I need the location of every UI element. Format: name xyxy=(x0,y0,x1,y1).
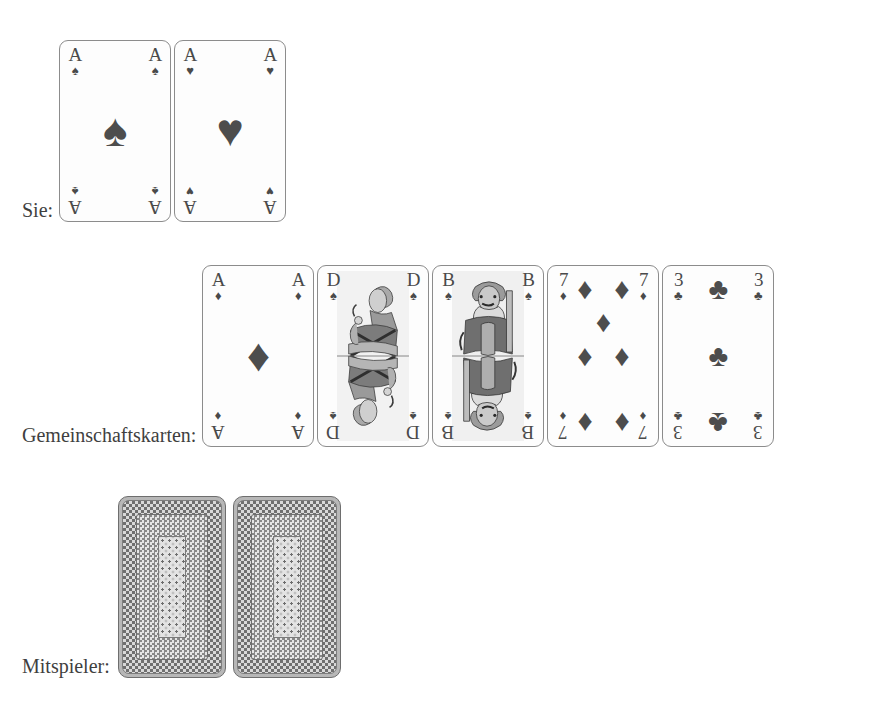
card-back-border-pattern xyxy=(237,500,337,674)
spade-icon: ♠ xyxy=(402,289,424,302)
card-back-field-pattern xyxy=(158,536,186,638)
spade-icon: ♠ xyxy=(322,289,344,302)
diamond-icon: ♦ xyxy=(247,333,270,379)
card-corner-top-left: B ♠ xyxy=(437,270,459,302)
card-pip-field: ♦ ♦ ♦ ♦ ♦ ♦ ♦ xyxy=(570,276,636,436)
club-icon: ♣ xyxy=(709,408,729,438)
card-rank: A xyxy=(259,198,281,217)
card-corner-top-left: D ♠ xyxy=(322,270,344,302)
opponent-hand-row: Mitspieler: xyxy=(22,494,341,678)
card-corner-bottom-right: 3 ♣ xyxy=(747,410,769,442)
diamond-icon: ♦ xyxy=(614,274,629,304)
club-icon: ♣ xyxy=(667,410,689,423)
diamond-icon: ♦ xyxy=(552,410,574,423)
card-rank: 7 xyxy=(552,423,574,442)
card-back-inner-border xyxy=(251,514,323,660)
diamond-icon: ♦ xyxy=(596,307,611,337)
card-corner-bottom-right: B ♠ xyxy=(517,410,539,442)
jack-figure-artwork xyxy=(452,271,524,441)
card-corner-bottom-left: D ♠ xyxy=(322,410,344,442)
diamond-icon: ♦ xyxy=(614,408,629,438)
card-corner-bottom-right: D ♠ xyxy=(402,410,424,442)
card-rank: D xyxy=(402,423,424,442)
card-corner-top-right: D ♠ xyxy=(402,270,424,302)
card-pip-field: ♥ xyxy=(197,51,263,211)
card-rank: D xyxy=(322,423,344,442)
card-queen-of-spades[interactable]: D ♠ D ♠ D ♠ D ♠ xyxy=(317,265,429,447)
card-rank: 7 xyxy=(632,423,654,442)
card-ace-of-spades[interactable]: A ♠ A ♠ ♠ A ♠ A ♠ xyxy=(59,40,171,222)
card-corner-bottom-left: A ♦ xyxy=(207,410,229,442)
community-cards-list: A ♦ A ♦ ♦ A ♦ A ♦ xyxy=(202,265,774,447)
diamond-icon: ♦ xyxy=(632,410,654,423)
card-face-down-1[interactable] xyxy=(118,496,226,678)
card-rank: A xyxy=(144,198,166,217)
club-icon: ♣ xyxy=(709,341,729,371)
card-pip-field: ♠ xyxy=(82,51,148,211)
opponent-hand-cards xyxy=(118,496,341,678)
spade-icon: ♠ xyxy=(517,289,539,302)
club-icon: ♣ xyxy=(709,274,729,304)
card-pip-field: ♦ xyxy=(225,276,291,436)
diamond-icon: ♦ xyxy=(614,341,629,371)
card-rank: A xyxy=(179,198,201,217)
player-hand-cards: A ♠ A ♠ ♠ A ♠ A ♠ A ♥ xyxy=(59,40,286,222)
player-hand-label: Sie: xyxy=(22,200,53,222)
card-corner-bottom-left: A ♥ xyxy=(179,185,201,217)
card-corner-bottom-right: A ♦ xyxy=(287,410,309,442)
card-corner-bottom-right: 7 ♦ xyxy=(632,410,654,442)
diamond-icon: ♦ xyxy=(577,274,592,304)
card-rank: A xyxy=(64,198,86,217)
club-icon: ♣ xyxy=(747,410,769,423)
card-rank: 3 xyxy=(747,423,769,442)
card-rank: D xyxy=(322,270,344,289)
card-pip-field: ♣ ♣ ♣ xyxy=(685,276,751,436)
card-corner-bottom-left: A ♠ xyxy=(64,185,86,217)
player-hand-row: Sie: A ♠ A ♠ ♠ A ♠ A ♠ xyxy=(22,38,286,222)
diamond-icon: ♦ xyxy=(577,341,592,371)
card-corner-bottom-right: A ♥ xyxy=(259,185,281,217)
card-ace-of-hearts[interactable]: A ♥ A ♥ ♥ A ♥ A ♥ xyxy=(174,40,286,222)
card-rank: B xyxy=(437,423,459,442)
opponent-hand-label: Mitspieler: xyxy=(22,656,110,678)
community-cards-label: Gemeinschaftskarten: xyxy=(22,425,196,447)
card-seven-of-diamonds[interactable]: 7 ♦ 7 ♦ ♦ ♦ ♦ ♦ ♦ ♦ ♦ 7 ♦ 7 ♦ xyxy=(547,265,659,447)
spade-icon: ♠ xyxy=(103,108,127,154)
diamond-icon: ♦ xyxy=(577,408,592,438)
card-rank: B xyxy=(517,423,539,442)
card-corner-top-right: B ♠ xyxy=(517,270,539,302)
spade-icon: ♠ xyxy=(437,289,459,302)
card-rank: 3 xyxy=(667,423,689,442)
card-rank: A xyxy=(287,423,309,442)
card-rank: B xyxy=(517,270,539,289)
card-jack-of-spades[interactable]: B ♠ B ♠ B ♠ B ♠ xyxy=(432,265,544,447)
community-cards-row: Gemeinschaftskarten: A ♦ A ♦ ♦ A ♦ A ♦ xyxy=(22,263,774,447)
spade-icon: ♠ xyxy=(517,410,539,423)
card-corner-bottom-left: 3 ♣ xyxy=(667,410,689,442)
card-corner-bottom-left: 7 ♦ xyxy=(552,410,574,442)
spade-icon: ♠ xyxy=(437,410,459,423)
heart-icon: ♥ xyxy=(216,108,243,154)
card-back-field-pattern xyxy=(273,536,301,638)
card-rank: A xyxy=(207,423,229,442)
card-back-border-pattern xyxy=(122,500,222,674)
card-corner-bottom-left: B ♠ xyxy=(437,410,459,442)
queen-figure-artwork xyxy=(337,271,409,441)
card-back-inner-border xyxy=(136,514,208,660)
card-rank: D xyxy=(402,270,424,289)
card-corner-bottom-right: A ♠ xyxy=(144,185,166,217)
card-face-down-2[interactable] xyxy=(233,496,341,678)
card-rank: B xyxy=(437,270,459,289)
card-three-of-clubs[interactable]: 3 ♣ 3 ♣ ♣ ♣ ♣ 3 ♣ 3 ♣ xyxy=(662,265,774,447)
card-ace-of-diamonds[interactable]: A ♦ A ♦ ♦ A ♦ A ♦ xyxy=(202,265,314,447)
